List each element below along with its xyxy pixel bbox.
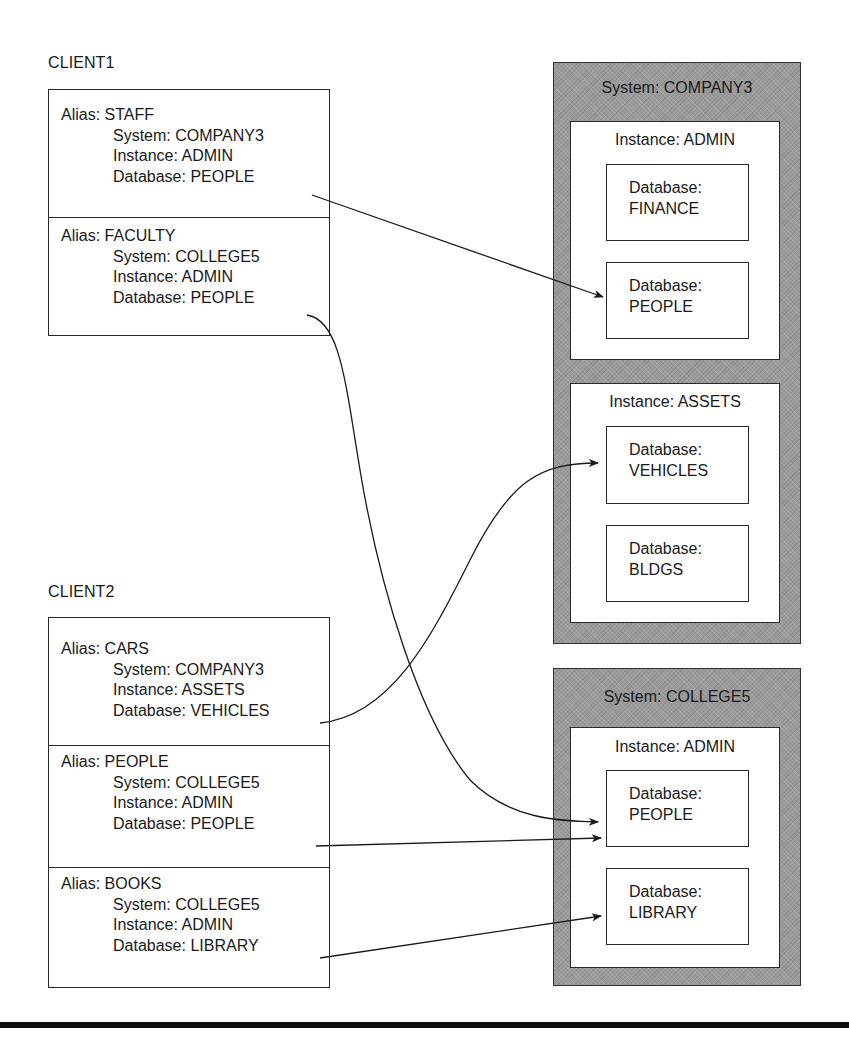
database-name: PEOPLE [629, 804, 702, 825]
alias-database: Database: VEHICLES [61, 701, 329, 722]
alias-entry-cars: Alias: CARS System: COMPANY3 Instance: A… [49, 639, 329, 721]
alias-entry-faculty: Alias: FACULTY System: COLLEGE5 Instance… [49, 217, 329, 308]
system-title: System: COLLEGE5 [554, 688, 800, 706]
alias-name: Alias: STAFF [61, 105, 329, 126]
database-label: Database: [629, 881, 702, 902]
alias-instance: Instance: ADMIN [61, 915, 329, 936]
instance-admin-box: Instance: ADMIN Database: FINANCE Databa… [570, 121, 780, 360]
system-college5-box: System: COLLEGE5 Instance: ADMIN Databas… [553, 668, 801, 986]
database-finance-box: Database: FINANCE [606, 164, 749, 241]
instance-assets-box: Instance: ASSETS Database: VEHICLES Data… [570, 383, 780, 623]
alias-database: Database: PEOPLE [61, 814, 329, 835]
database-name: FINANCE [629, 198, 702, 219]
database-bldgs-box: Database: BLDGS [606, 525, 749, 602]
client1-label: CLIENT1 [48, 54, 115, 72]
instance-title: Instance: ADMIN [571, 131, 779, 149]
alias-system: System: COLLEGE5 [61, 773, 329, 794]
client2-directory-box: Alias: CARS System: COMPANY3 Instance: A… [48, 617, 330, 988]
bottom-rule-divider [0, 1022, 849, 1028]
alias-system: System: COMPANY3 [61, 126, 329, 147]
database-label: Database: [629, 439, 708, 460]
alias-entry-staff: Alias: STAFF System: COMPANY3 Instance: … [49, 105, 329, 187]
alias-name: Alias: BOOKS [61, 874, 329, 895]
database-name: VEHICLES [629, 460, 708, 481]
alias-system: System: COLLEGE5 [61, 895, 329, 916]
database-name: BLDGS [629, 559, 702, 580]
database-name: PEOPLE [629, 296, 702, 317]
alias-database: Database: PEOPLE [61, 167, 329, 188]
alias-name: Alias: FACULTY [61, 226, 329, 247]
alias-database: Database: PEOPLE [61, 288, 329, 309]
alias-name: Alias: PEOPLE [61, 752, 329, 773]
database-vehicles-box: Database: VEHICLES [606, 426, 749, 504]
alias-instance: Instance: ASSETS [61, 680, 329, 701]
alias-instance: Instance: ADMIN [61, 146, 329, 167]
database-name: LIBRARY [629, 902, 702, 923]
database-library-box: Database: LIBRARY [606, 868, 749, 945]
database-label: Database: [629, 275, 702, 296]
alias-instance: Instance: ADMIN [61, 793, 329, 814]
alias-name: Alias: CARS [61, 639, 329, 660]
client2-label: CLIENT2 [48, 583, 115, 601]
database-label: Database: [629, 783, 702, 804]
instance-title: Instance: ADMIN [571, 738, 779, 756]
client1-directory-box: Alias: STAFF System: COMPANY3 Instance: … [48, 89, 330, 336]
alias-database: Database: LIBRARY [61, 936, 329, 957]
alias-entry-people: Alias: PEOPLE System: COLLEGE5 Instance:… [49, 745, 329, 834]
alias-entry-books: Alias: BOOKS System: COLLEGE5 Instance: … [49, 867, 329, 956]
instance-admin-box: Instance: ADMIN Database: PEOPLE Databas… [570, 727, 780, 968]
database-label: Database: [629, 177, 702, 198]
alias-system: System: COLLEGE5 [61, 247, 329, 268]
database-people-box: Database: PEOPLE [606, 770, 749, 847]
instance-title: Instance: ASSETS [571, 393, 779, 411]
system-title: System: COMPANY3 [554, 79, 800, 97]
alias-system: System: COMPANY3 [61, 660, 329, 681]
system-company3-box: System: COMPANY3 Instance: ADMIN Databas… [553, 62, 801, 644]
database-people-box: Database: PEOPLE [606, 262, 749, 339]
alias-instance: Instance: ADMIN [61, 267, 329, 288]
database-label: Database: [629, 538, 702, 559]
